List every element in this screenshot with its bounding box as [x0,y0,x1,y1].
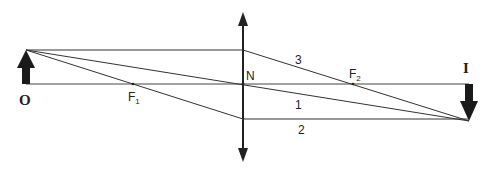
focus-2-point [352,83,355,86]
focus-1-point [132,83,135,86]
ray-3-label: 3 [295,53,302,67]
focus-2-label: F2 [349,67,361,83]
lens-bottom-arrow-icon [238,148,248,162]
ray-2-label: 2 [298,123,305,137]
lens-top-arrow-icon [238,12,248,26]
converging-lens [238,12,248,162]
image-arrow [460,84,478,121]
ray-diagram: O I N F1 F2 3 1 2 [0,0,498,176]
focus-1-label: F1 [128,90,140,106]
image-label: I [463,60,469,76]
object-label: O [19,92,31,108]
optical-center-point [242,83,245,86]
object-arrow [17,50,35,84]
ray-1 [26,50,469,121]
ray-1-label: 1 [295,98,302,112]
optical-center-label: N [246,69,255,83]
